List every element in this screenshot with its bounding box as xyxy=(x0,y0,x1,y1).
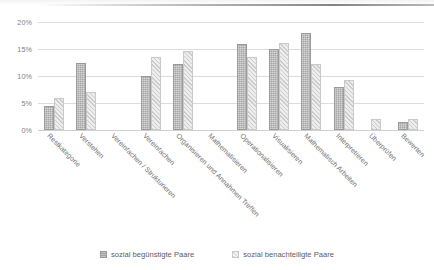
bar-group xyxy=(167,22,199,130)
bar xyxy=(237,44,247,130)
category-label: Interpretieren xyxy=(335,132,370,167)
bar xyxy=(86,92,96,130)
bar xyxy=(44,106,54,130)
legend-label: sozial benachteiligte Paare xyxy=(243,250,334,259)
legend-label: sozial begünstigte Paare xyxy=(111,250,194,259)
legend-item[interactable]: sozial benachteiligte Paare xyxy=(232,250,334,259)
bar xyxy=(151,57,161,130)
y-axis-tick-label: 5% xyxy=(21,99,32,108)
bar-group xyxy=(295,22,327,130)
y-axis-tick-label: 15% xyxy=(17,45,32,54)
legend-swatch-icon xyxy=(100,251,107,258)
bar-group xyxy=(328,22,360,130)
category-label: Mathematisch Arbeiten xyxy=(303,132,359,188)
category-label: Restkategorie xyxy=(46,132,82,168)
legend-swatch-icon xyxy=(232,251,239,258)
y-axis-tick-label: 20% xyxy=(17,18,32,27)
y-axis-tick-label: 0% xyxy=(21,126,32,135)
chart-legend: sozial begünstigte Paaresozial benachtei… xyxy=(0,250,434,259)
bar xyxy=(408,119,418,130)
bar-chart: 0%5%10%15%20% RestkategorieVerstehenVere… xyxy=(0,0,434,270)
bar-group xyxy=(263,22,295,130)
plot-area: 0%5%10%15%20% xyxy=(38,22,424,130)
bar-group xyxy=(70,22,102,130)
bar xyxy=(371,119,381,130)
category-label: Überprüfen xyxy=(368,132,398,162)
bar xyxy=(76,63,86,131)
legend-item[interactable]: sozial begünstigte Paare xyxy=(100,250,194,259)
bar xyxy=(301,33,311,130)
category-label: Verstehen xyxy=(78,132,106,160)
bar xyxy=(311,64,321,130)
bar xyxy=(398,122,408,130)
bar-group xyxy=(231,22,263,130)
scanned-page-edge-line xyxy=(38,4,434,6)
bar-group xyxy=(102,22,134,130)
bar xyxy=(269,49,279,130)
bar-group xyxy=(38,22,70,130)
bar xyxy=(141,76,151,130)
category-label: Visualisieren xyxy=(271,132,304,165)
bar xyxy=(247,57,257,130)
category-label: Vereinfachen / Strukturieren xyxy=(110,132,177,199)
bar-group xyxy=(199,22,231,130)
bar xyxy=(279,43,289,130)
bar xyxy=(334,87,344,130)
category-label: Vereinfachen xyxy=(142,132,176,166)
bar-group xyxy=(360,22,392,130)
bars-layer xyxy=(38,22,424,130)
axis-baseline xyxy=(38,130,424,131)
bar xyxy=(54,98,64,130)
y-axis-tick-label: 10% xyxy=(17,72,32,81)
bar xyxy=(344,80,354,130)
bar-group xyxy=(392,22,424,130)
bar-group xyxy=(135,22,167,130)
bar xyxy=(183,51,193,130)
bar xyxy=(173,64,183,130)
category-axis-labels: RestkategorieVerstehenVereinfachen / Str… xyxy=(38,132,424,236)
category-label: Bewerten xyxy=(400,132,426,158)
